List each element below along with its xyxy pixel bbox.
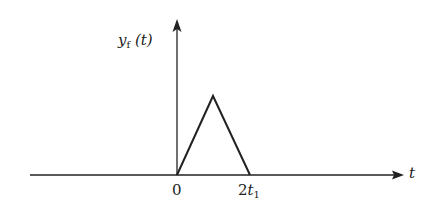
tick-label-origin: 0 [172, 183, 182, 198]
y-axis-label-arg: (t) [135, 31, 153, 49]
triangle-waveform [177, 96, 250, 175]
tick-var: t [248, 181, 254, 199]
y-axis-label-sub: f [126, 39, 130, 50]
tick-coef: 2 [238, 181, 248, 199]
y-axis-label: yf (t) [118, 33, 153, 48]
tick-label-2t1: 2t1 [238, 183, 260, 198]
signal-diagram [0, 0, 429, 209]
tick-sub: 1 [254, 189, 260, 200]
x-axis-label: t [409, 166, 415, 181]
